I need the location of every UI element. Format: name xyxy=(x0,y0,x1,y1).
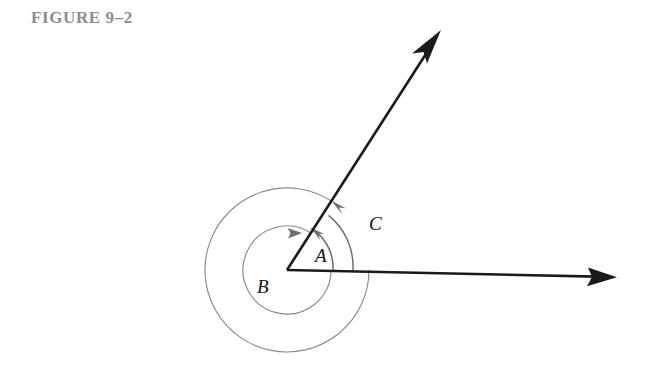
upper-ray-arrowhead xyxy=(412,30,441,64)
upper-ray xyxy=(287,52,428,271)
angle-diagram: A B C xyxy=(0,0,645,375)
label-B: B xyxy=(257,276,269,297)
arc-B-arrowhead xyxy=(288,228,303,239)
label-C: C xyxy=(369,213,382,234)
figure-container: FIGURE 9–2 A B C xyxy=(0,0,645,375)
horizontal-ray xyxy=(287,270,597,277)
arc-C-arrowhead xyxy=(331,201,346,215)
label-A: A xyxy=(313,245,327,266)
